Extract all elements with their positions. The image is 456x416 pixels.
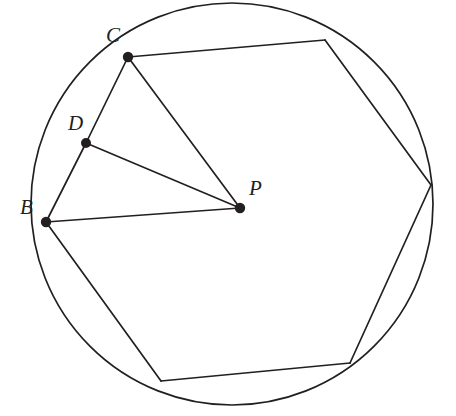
point-label-B: B	[20, 197, 33, 218]
point-dot-P	[235, 203, 245, 213]
point-dot-B	[41, 217, 51, 227]
interior-segments	[46, 57, 240, 222]
point-label-C: C	[106, 25, 120, 46]
segment-B-to-P	[46, 208, 240, 222]
point-dot-C	[123, 52, 133, 62]
geometry-canvas	[0, 0, 456, 416]
point-dot-D	[81, 138, 91, 148]
point-label-D: D	[68, 113, 83, 134]
geometry-figure: C D B P	[0, 0, 456, 416]
edge-B-to-D	[46, 143, 86, 222]
edge-D-to-C	[86, 57, 128, 143]
point-label-P: P	[249, 178, 262, 199]
edge-V3-to-V4	[161, 363, 350, 381]
edge-V4-to-B	[46, 222, 161, 381]
edge-V2-to-V3	[350, 185, 431, 363]
segment-C-to-P	[128, 57, 240, 208]
edge-V1-to-V2	[325, 40, 431, 185]
edge-C-to-V1	[128, 40, 325, 57]
